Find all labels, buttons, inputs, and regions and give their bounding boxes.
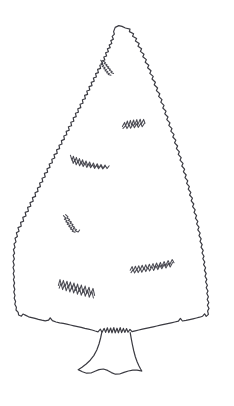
tree-illustration bbox=[0, 0, 234, 406]
drawing-canvas: Evergreen Tree Line Drawing bbox=[0, 0, 234, 406]
background-rect bbox=[0, 0, 234, 406]
